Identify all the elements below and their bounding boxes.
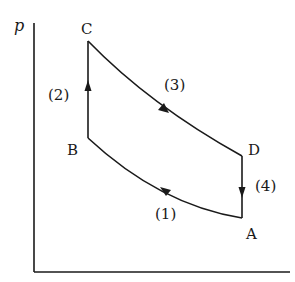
arrow-down-icon [239,187,246,198]
point-label-a: A [245,225,257,243]
point-label-b: B [67,141,78,159]
process-3-curve [88,41,242,156]
pv-diagram: p C B D A (2) (3) (4) (1) [0,0,295,282]
arrow-up-icon [85,80,92,91]
process-label-1: (1) [155,205,176,223]
process-label-4: (4) [255,177,276,195]
y-axis-label: p [14,16,24,35]
point-label-d: D [248,141,260,159]
process-label-2: (2) [48,86,69,104]
point-label-c: C [81,20,92,38]
process-label-3: (3) [164,76,185,94]
